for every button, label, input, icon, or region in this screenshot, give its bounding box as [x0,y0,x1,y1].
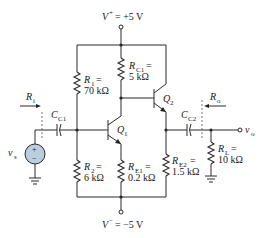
svg-text:70 kΩ: 70 kΩ [84,85,109,96]
vminus-terminal-icon [119,210,123,214]
svg-text:=: = [146,60,152,71]
svg-text:R: R [25,91,32,102]
svg-text:C2: C2 [188,115,197,123]
emitter-arrow-icon [115,139,121,144]
resistor-rl: R L = 10 kΩ [205,130,243,182]
svg-text:=: = [190,155,196,166]
svg-text:=: = [145,161,151,172]
svg-text:s: s [14,153,17,161]
svg-text:= −5 V: = −5 V [115,219,144,230]
arrow-right-icon [36,104,41,108]
svg-text:v: v [8,147,13,158]
svg-text:v: v [245,124,250,135]
negative-supply: V − = −5 V [102,197,144,230]
svg-text:i: i [33,97,35,105]
ri-port-marker: R i [20,91,41,108]
transistor-q1: Q 1 [77,98,128,160]
svg-text:R: R [128,60,135,71]
vplus-value: = +5 V [115,11,144,22]
svg-text:C: C [51,109,58,120]
svg-text:6 kΩ: 6 kΩ [84,172,104,183]
resistor-r1: R 1 = 70 kΩ [74,45,109,130]
svg-text:=: = [96,74,102,85]
transistor-q2: Q 2 [154,45,174,130]
svg-text:0.2 kΩ: 0.2 kΩ [128,172,155,183]
svg-text:R: R [217,143,224,154]
vo-terminal-icon [238,128,242,132]
arrow-left-icon [204,104,209,108]
svg-text:o: o [251,130,255,138]
svg-text:R: R [83,161,90,172]
svg-text:−: − [32,154,37,163]
circuit-diagram: V + = +5 V R 1 = 70 kΩ R C1 = 5 kΩ Q [0,0,265,238]
svg-text:10 kΩ: 10 kΩ [218,154,243,165]
svg-text:1: 1 [124,130,128,138]
vplus-terminal-icon [119,25,123,29]
svg-text:2: 2 [170,99,174,107]
resistor-re1: R E1 = 0.2 kΩ [118,160,155,197]
resistor-re2: R E2 = 1.5 kΩ [163,130,199,197]
svg-text:+: + [32,145,37,154]
svg-text:R: R [171,155,178,166]
ro-port-marker: R o [204,91,226,108]
vplus-sup: + [109,9,113,17]
svg-text:1.5 kΩ: 1.5 kΩ [172,166,199,177]
positive-supply: V + = +5 V [102,9,144,45]
voltage-source-vs: + − v s [8,130,45,184]
svg-text:R: R [127,161,134,172]
svg-text:=: = [96,161,102,172]
svg-text:=: = [231,143,237,154]
svg-text:−: − [109,217,113,225]
svg-text:C1: C1 [58,115,67,123]
svg-text:C: C [181,109,188,120]
resistor-r2: R 2 = 6 kΩ [74,130,104,197]
capacitor-cc1: C C1 [51,109,77,136]
svg-text:R: R [83,74,90,85]
svg-text:R: R [209,91,216,102]
capacitor-cc2: C C2 [181,109,238,136]
svg-text:5 kΩ: 5 kΩ [129,71,149,82]
resistor-rc1: R C1 = 5 kΩ [118,45,152,98]
svg-text:o: o [217,97,221,105]
